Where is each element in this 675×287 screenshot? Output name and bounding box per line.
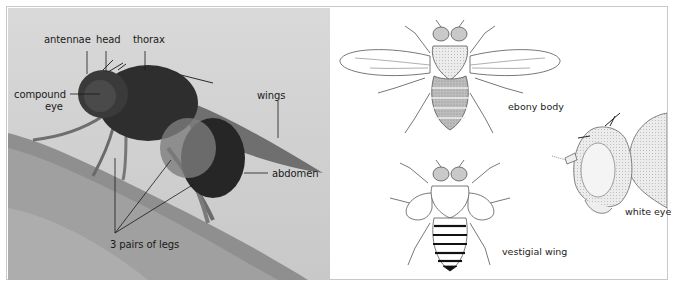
fruit-fly-photo-panel: antennae head thorax compound eye wings … [8,8,330,280]
mutant-fly-drawings [330,8,667,279]
label-white-eye: white eye [625,206,671,217]
label-thorax: thorax [133,34,165,45]
label-compound-eye-line2: eye [45,101,63,112]
label-head: head [96,34,121,45]
white-eye-head-drawing [552,113,667,213]
label-wings: wings [257,90,285,101]
ebony-body-fly-drawing [340,20,560,133]
label-legs: 3 pairs of legs [110,239,179,250]
vestigial-wing-fly-drawing [390,160,510,271]
label-antennae: antennae [44,34,91,45]
label-vestigial-wing: vestigial wing [502,246,567,257]
label-abdomen: abdomen [272,168,318,179]
label-compound-eye-line1: compound [14,89,66,100]
label-ebony-body: ebony body [508,101,564,112]
mutant-illustrations-panel: ebony body vestigial wing white eye [330,8,667,279]
